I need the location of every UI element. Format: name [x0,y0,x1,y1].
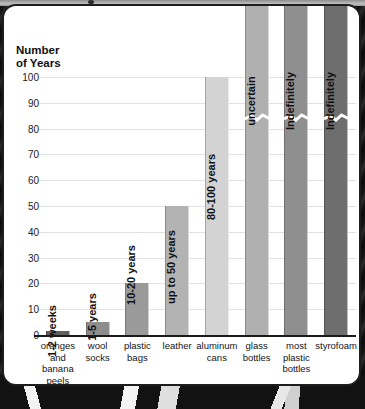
y-axis-tick-label: 30 [13,252,39,263]
x-axis-line [34,335,356,337]
plot-area: 01020304050607080901001-2 weeks1-5 years… [38,6,356,335]
y-axis-tick-label: 80 [13,123,39,134]
y-axis-tick-label: 100 [13,72,39,83]
bar-value-label: Indefinitely [284,72,296,130]
bar-value-label: Indefinitely [324,72,336,130]
y-axis-tick-label: 90 [13,97,39,108]
y-axis-tick-label: 40 [13,226,39,237]
y-axis-tick-label: 70 [13,149,39,160]
x-axis-category-label: styrofoam [312,340,360,352]
bar[interactable] [324,4,348,335]
bar-value-label: 80-100 years [205,154,217,220]
bar-value-label: uncertain [245,76,257,126]
bar-value-label: 10-20 years [125,245,137,305]
bar-value-label: 1-5 years [86,293,98,341]
bar[interactable] [284,4,308,335]
chart-card: Number of Years 01020304050607080901001-… [2,4,361,386]
y-axis-tick-label: 10 [13,304,39,315]
y-axis-tick-label: 50 [13,201,39,212]
y-axis-tick-label: 60 [13,175,39,186]
bar[interactable] [245,4,269,335]
y-axis-tick-label: 20 [13,278,39,289]
bar-value-label: up to 50 years [165,230,177,304]
bar-chart: Number of Years 01020304050607080901001-… [4,6,359,384]
